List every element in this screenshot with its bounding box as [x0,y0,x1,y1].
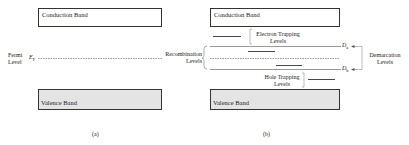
da-arrow-icon [351,45,355,48]
hole-trapping-bracket [302,73,304,87]
diagram-lines [0,0,409,145]
electron-trapping-bracket [250,29,252,44]
db-arrow-icon [351,68,355,71]
demarcation-bracket [354,47,362,70]
recombination-bracket [202,46,207,69]
